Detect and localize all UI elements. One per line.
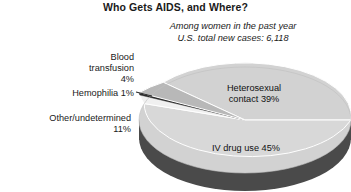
label-heterosexual-contact-line-2: contact 39% [196, 94, 312, 105]
pie-chart-figure: Who Gets AIDS, and Where? Among women in… [0, 0, 351, 192]
label-other-undetermined-line-1: Other/undetermined [0, 113, 131, 124]
label-blood-transfusion-line-2: transfusion [0, 63, 134, 74]
label-other-undetermined: Other/undetermined 11% [0, 113, 131, 135]
label-blood-transfusion: Blood transfusion 4% [0, 52, 134, 86]
label-other-undetermined-value: 11% [0, 124, 131, 135]
label-blood-transfusion-line-1: Blood [0, 52, 134, 63]
label-heterosexual-contact-line-1: Heterosexual [196, 83, 312, 94]
pie-top-face [139, 63, 351, 173]
label-iv-drug-use: IV drug use 45% [186, 143, 306, 154]
label-blood-transfusion-value: 4% [0, 74, 134, 85]
label-hemophilia: Hemophilia 1% [0, 88, 134, 99]
label-heterosexual-contact: Heterosexual contact 39% [196, 83, 312, 106]
